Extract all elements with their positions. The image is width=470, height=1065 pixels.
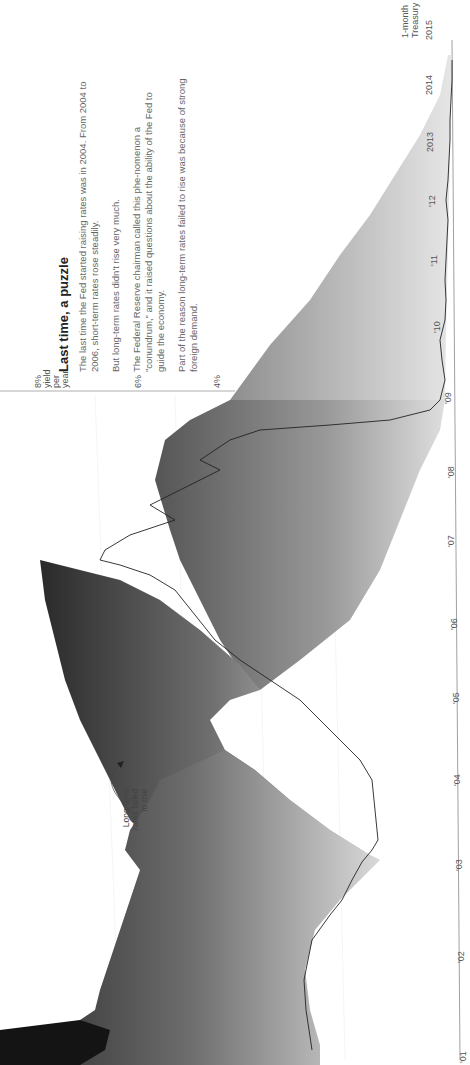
panel-title: Last time, a puzzle xyxy=(56,52,71,372)
y-axis-tick-4pct: 4% xyxy=(213,375,222,388)
y-axis-tick-6pct: 6% xyxy=(134,375,143,388)
panel-paragraph-2: But long-term rates didn't rise very muc… xyxy=(110,72,122,372)
x-axis-line xyxy=(452,40,460,1060)
x-tick-11: '11 xyxy=(429,255,439,266)
x-tick-07: '07 xyxy=(446,535,456,547)
x-tick-05: '05 xyxy=(451,692,461,704)
x-tick-01: '01 xyxy=(458,1051,468,1063)
x-tick-12: '12 xyxy=(427,195,437,207)
x-tick-2013: 2013 xyxy=(425,132,435,152)
panel-paragraph-1: The last time the Fed started raising ra… xyxy=(77,72,101,372)
x-tick-08: '08 xyxy=(446,466,456,478)
x-tick-10: '10 xyxy=(432,321,442,333)
x-tick-06: '06 xyxy=(449,618,459,630)
x-tick-2014: 2014 xyxy=(424,75,434,95)
surface-2001-2004 xyxy=(5,750,380,1065)
y-axis-label-8pct: 8% yield per year xyxy=(34,369,70,388)
x-tick-09: '09 xyxy=(443,392,453,404)
x-tick-02: '02 xyxy=(456,951,466,963)
x-tick-2015: 2015 xyxy=(424,20,434,40)
panel-paragraph-4: Part of the reason long-term rates faile… xyxy=(176,72,200,372)
panel-paragraph-3: The Federal Reserve chairman called this… xyxy=(131,72,167,372)
x-tick-03: '03 xyxy=(454,859,464,871)
annotation-long-term-rates: Long-term rates failed to rise xyxy=(122,788,149,830)
series-label-1-month-treasury: 1-month Treasury xyxy=(400,3,420,38)
surface-2009-2015 xyxy=(230,55,452,400)
x-tick-04: '04 xyxy=(452,774,462,786)
info-panel: Last time, a puzzle The last time the Fe… xyxy=(56,52,200,372)
